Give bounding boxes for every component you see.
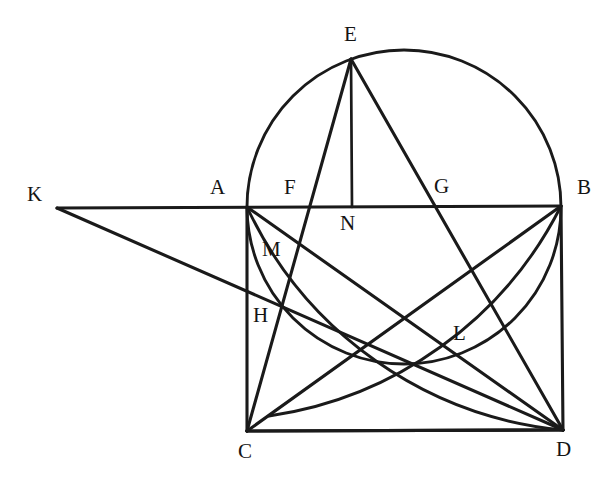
point-label-D: D <box>556 439 571 460</box>
segment-e-n <box>351 59 352 207</box>
point-label-H: H <box>253 305 268 326</box>
geometry-figure: E A F G B K N M H L C D <box>0 0 606 485</box>
segment-b-d <box>561 206 563 430</box>
point-label-K: K <box>27 184 42 205</box>
point-label-E: E <box>344 24 357 45</box>
point-label-F: F <box>284 177 296 198</box>
point-label-B: B <box>577 177 591 198</box>
point-label-G: G <box>434 176 449 197</box>
point-label-A: A <box>210 177 225 198</box>
geometry-canvas <box>0 0 606 485</box>
point-label-L: L <box>453 323 466 344</box>
segment-c-b <box>247 430 563 431</box>
point-label-N: N <box>340 213 355 234</box>
segment-k-d <box>57 208 563 430</box>
point-label-C: C <box>238 441 252 462</box>
point-label-M: M <box>262 239 281 260</box>
